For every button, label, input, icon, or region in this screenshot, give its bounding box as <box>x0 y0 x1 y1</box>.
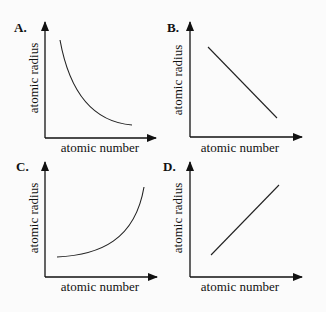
panel-b: B. atomic number atomic radius <box>167 20 302 155</box>
x-axis-label: atomic number <box>201 140 280 155</box>
decreasing-curve <box>60 40 132 125</box>
panel-d: D. atomic number atomic radius <box>163 159 302 294</box>
panel-c: C. atomic number atomic radius <box>16 159 157 294</box>
panel-a: A. atomic number atomic radius <box>14 20 156 155</box>
y-axis-label: atomic radius <box>26 43 41 113</box>
graph-options-figure: A. atomic number atomic radius B. atomic… <box>0 0 326 312</box>
panel-letter: B. <box>167 20 179 35</box>
panel-letter: C. <box>16 159 29 174</box>
y-axis-label: atomic radius <box>170 45 185 115</box>
y-axis-label: atomic radius <box>170 183 185 253</box>
x-axis-label: atomic number <box>61 140 140 155</box>
decreasing-line <box>208 47 277 118</box>
y-axis-label: atomic radius <box>26 183 41 253</box>
panel-letter: D. <box>163 159 176 174</box>
panel-letter: A. <box>14 20 27 35</box>
increasing-curve <box>57 187 144 257</box>
x-axis-label: atomic number <box>61 279 140 294</box>
increasing-line <box>211 185 279 255</box>
x-axis-label: atomic number <box>201 279 280 294</box>
